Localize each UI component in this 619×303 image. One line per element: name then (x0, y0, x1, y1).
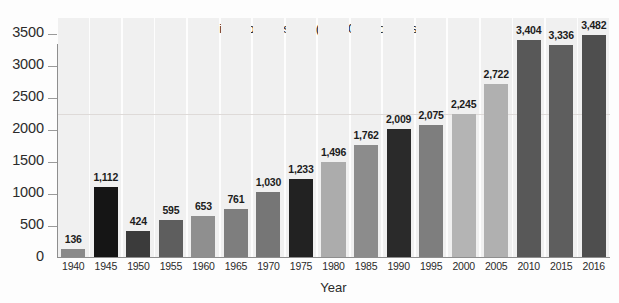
x-axis-tick-label: 1955 (155, 260, 188, 278)
y-axis-tick-label: 1000 (12, 184, 44, 200)
x-axis-tick-label: 2015 (545, 260, 578, 278)
x-axis-tick-label: 1995 (415, 260, 448, 278)
bar[interactable]: 3,336 (549, 45, 573, 259)
bar-slot: 1,030 (252, 18, 285, 258)
bar-slot: 2,075 (415, 18, 448, 258)
bar[interactable]: 653 (191, 216, 215, 258)
bar-value-label: 1,233 (288, 163, 313, 175)
bar-value-label: 424 (130, 215, 147, 227)
x-axis-tick-label: 1945 (90, 260, 123, 278)
bar-value-label: 1,762 (353, 129, 378, 141)
y-axis-tick-label: 2000 (12, 120, 44, 136)
bar[interactable]: 595 (159, 220, 183, 258)
x-axis-tick-label: 2005 (480, 260, 513, 278)
x-axis-tick-label: 1985 (350, 260, 383, 278)
bar-slot: 1,496 (317, 18, 350, 258)
bar-slot: 3,482 (578, 18, 611, 258)
plot-area: 1361,1124245956537611,0301,2331,4961,762… (57, 18, 610, 258)
y-axis-tick-mark (48, 226, 57, 227)
y-axis-tick-label: 2500 (12, 88, 44, 104)
bar-value-label: 653 (195, 200, 212, 212)
bar-value-label: 3,482 (581, 19, 606, 31)
bar-slot: 3,404 (512, 18, 545, 258)
bar-value-label: 136 (65, 233, 82, 245)
bar-value-label: 1,496 (321, 146, 346, 158)
bar[interactable]: 2,075 (419, 125, 443, 258)
bar-value-label: 2,009 (386, 113, 411, 125)
bar[interactable]: 1,762 (354, 145, 378, 258)
y-axis-tick-label: 0 (36, 248, 44, 264)
bar-slot: 3,336 (545, 18, 578, 258)
bar[interactable]: 3,482 (582, 35, 606, 258)
x-axis-tick-label: 1950 (122, 260, 155, 278)
bar-value-label: 2,075 (418, 109, 443, 121)
y-axis-tick-mark (48, 66, 57, 67)
bar-value-label: 2,245 (451, 98, 476, 110)
bar-value-label: 2,722 (484, 68, 509, 80)
y-axis: 0500100015002000250030003500 (0, 18, 57, 258)
bar-value-label: 595 (162, 204, 179, 216)
bar-value-label: 761 (227, 193, 244, 205)
bar-slot: 595 (155, 18, 188, 258)
x-axis-tick-label: 2016 (578, 260, 611, 278)
x-axis-tick-label: 1980 (317, 260, 350, 278)
bar-chart: Billions of constant (FY 2009) dollars 0… (0, 0, 619, 303)
x-axis-title: Year (57, 280, 610, 295)
bar[interactable]: 1,112 (94, 187, 118, 258)
bar-slot: 1,233 (285, 18, 318, 258)
x-axis: 1940194519501955196019651970197519801985… (57, 260, 610, 278)
bar-slot: 653 (187, 18, 220, 258)
y-axis-tick-mark (48, 98, 57, 99)
bars-layer: 1361,1124245956537611,0301,2331,4961,762… (57, 18, 610, 258)
y-axis-tick-label: 3000 (12, 56, 44, 72)
bar-slot: 2,722 (480, 18, 513, 258)
bar-slot: 1,762 (350, 18, 383, 258)
bar-value-label: 1,112 (93, 171, 118, 183)
y-axis-line (57, 44, 58, 258)
y-axis-tick-mark (48, 130, 57, 131)
bar[interactable]: 1,030 (256, 192, 280, 258)
x-axis-tick-label: 1970 (252, 260, 285, 278)
y-axis-tick-label: 1500 (12, 152, 44, 168)
bar[interactable]: 2,009 (387, 129, 411, 258)
x-axis-tick-label: 1960 (187, 260, 220, 278)
y-axis-tick-mark (48, 34, 57, 35)
bar-slot: 136 (57, 18, 90, 258)
y-axis-tick-label: 500 (20, 216, 44, 232)
x-axis-tick-label: 2010 (512, 260, 545, 278)
bar[interactable]: 424 (126, 231, 150, 258)
bar[interactable]: 2,722 (484, 84, 508, 258)
bar-slot: 1,112 (90, 18, 123, 258)
bar-value-label: 3,336 (549, 29, 574, 41)
x-axis-tick-label: 1940 (57, 260, 90, 278)
x-axis-tick-label: 2000 (447, 260, 480, 278)
bar[interactable]: 1,496 (321, 162, 345, 258)
bar[interactable]: 3,404 (517, 40, 541, 258)
y-axis-tick-label: 3500 (12, 24, 44, 40)
bar[interactable]: 761 (224, 209, 248, 258)
bar-value-label: 3,404 (516, 24, 541, 36)
bar-slot: 2,245 (447, 18, 480, 258)
bar[interactable]: 1,233 (289, 179, 313, 258)
bar-slot: 2,009 (382, 18, 415, 258)
y-axis-tick-mark (48, 162, 57, 163)
x-axis-tick-label: 1965 (220, 260, 253, 278)
bar-value-label: 1,030 (256, 176, 281, 188)
x-axis-line (57, 257, 610, 258)
y-axis-tick-mark (48, 194, 57, 195)
bar-slot: 424 (122, 18, 155, 258)
x-axis-tick-label: 1990 (382, 260, 415, 278)
x-axis-tick-label: 1975 (285, 260, 318, 278)
bar-slot: 761 (220, 18, 253, 258)
bar[interactable]: 2,245 (452, 114, 476, 258)
